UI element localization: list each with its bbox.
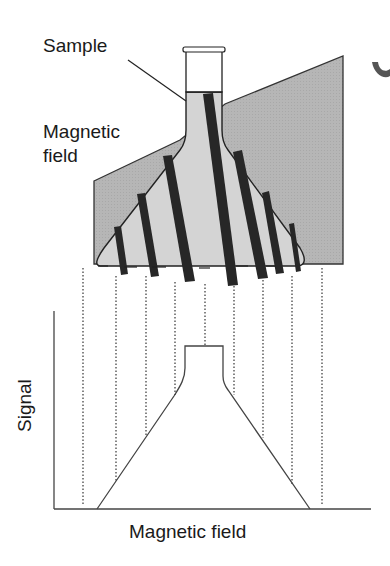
signal-profile — [97, 346, 310, 509]
sample-label: Sample — [43, 35, 107, 57]
diagram-canvas — [0, 0, 390, 566]
flask-lip — [183, 47, 225, 52]
x-axis-label: Magnetic field — [129, 521, 246, 543]
sample-pointer-line — [128, 60, 186, 101]
magnetic-field-label: Magnetic field — [43, 120, 133, 168]
rotation-arrow-icon — [372, 62, 390, 77]
projection-lines — [83, 268, 322, 505]
y-axis-label: Signal — [14, 379, 36, 432]
flask-neck — [186, 50, 222, 92]
